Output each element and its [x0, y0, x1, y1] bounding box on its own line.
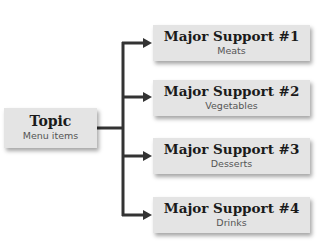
- support-subtitle: Vegetables: [153, 100, 310, 112]
- support-box-1: Major Support #1 Meats: [153, 25, 310, 61]
- support-title: Major Support #1: [153, 28, 310, 44]
- support-subtitle: Desserts: [153, 158, 310, 170]
- support-title: Major Support #4: [153, 200, 310, 216]
- support-subtitle: Drinks: [153, 217, 310, 229]
- topic-box: Topic Menu items: [4, 108, 97, 148]
- support-title: Major Support #2: [153, 83, 310, 99]
- topic-title: Topic: [4, 113, 97, 129]
- arrowhead-icon: [143, 210, 152, 220]
- arrowhead-icon: [143, 38, 152, 48]
- support-subtitle: Meats: [153, 45, 310, 57]
- support-box-2: Major Support #2 Vegetables: [153, 80, 310, 116]
- topic-subtitle: Menu items: [4, 130, 97, 142]
- support-box-3: Major Support #3 Desserts: [153, 138, 310, 174]
- arrowhead-icon: [143, 151, 152, 161]
- arrowhead-icon: [143, 92, 152, 102]
- support-title: Major Support #3: [153, 141, 310, 157]
- support-box-4: Major Support #4 Drinks: [153, 197, 310, 233]
